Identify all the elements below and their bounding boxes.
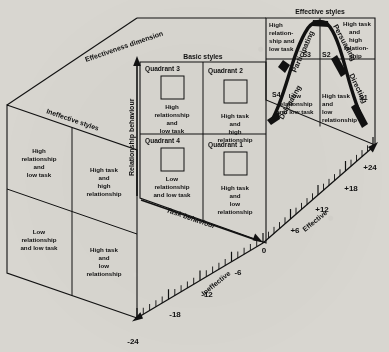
quadrant-label: Quadrant 1 (208, 141, 243, 149)
ineffective-cell-top-left: High relationship and low task (21, 147, 56, 178)
panel-basic: Basic styles Quadrant 3 High relationshi… (140, 53, 266, 243)
cell-line: and (349, 28, 360, 35)
tick-label-minus18: -18 (169, 310, 181, 319)
curve-blob-left (278, 60, 290, 73)
cell-line: and (98, 174, 109, 181)
cell-line: relationship (322, 116, 357, 123)
cell-line: and (98, 254, 109, 261)
basic-cell-top-right: Quadrant 2 High task and high relationsh… (208, 67, 253, 143)
task-behaviour-label: Task behaviour (166, 206, 218, 230)
ineffective-top-ridge (7, 18, 137, 105)
task-behaviour-axis: Task behaviour (141, 200, 263, 243)
basic-cell-bottom-left: Quadrant 4 Low relationship and low task (145, 137, 191, 198)
effectiveness-scale-axis: -24 -18 -12 -6 0 +6 +12 +18 +24 Ineffect… (127, 137, 378, 346)
quadrant-label: Quadrant 3 (145, 65, 180, 73)
cell-line: low (230, 200, 240, 207)
quadrant-box (161, 148, 184, 171)
style-label-s4: S4 (272, 91, 281, 98)
curve-blob-top (312, 20, 329, 27)
cell-line: relationship (21, 155, 56, 162)
effectiveness-dimension-ridge: Effectiveness dimension (84, 18, 266, 63)
cell-line: High task (90, 246, 118, 253)
cell-line: low task (160, 127, 185, 134)
axis-ticks (137, 137, 373, 318)
basic-cell-top-left: Quadrant 3 High relationship and low tas… (145, 65, 190, 134)
relationship-behaviour-label: Relationship behaviour (128, 98, 136, 176)
cell-line: relationship (21, 236, 56, 243)
cell-line: low task (269, 45, 294, 52)
ineffective-cell-top-right: High task and high relationship (86, 166, 121, 197)
cell-line: High (165, 103, 179, 110)
cell-line: and (229, 120, 240, 127)
panel-ineffective: Ineffective styles High relationship and… (7, 18, 137, 318)
basic-heading: Basic styles (183, 53, 223, 61)
cell-line: High task (343, 20, 371, 27)
panel-effective: Effective styles High relation- ship and… (266, 8, 375, 145)
cell-line: High (32, 147, 46, 154)
tick-label-plus18: +18 (344, 184, 358, 193)
relationship-behaviour-axis: Relationship behaviour (128, 56, 141, 196)
cell-line: High task (221, 184, 249, 191)
ineffective-cell-bottom-right: High task and low relationship (86, 246, 121, 277)
ineffective-cell-bottom-left: Low relationship and low task (20, 228, 58, 251)
effectiveness-dimension-label: Effectiveness dimension (84, 30, 164, 63)
cell-line: High task (90, 166, 118, 173)
effective-cell-top-left: High relation- ship and low task (269, 21, 295, 52)
task-axis-arrowhead (253, 234, 263, 243)
cell-line: relationship (154, 111, 189, 118)
cell-line: Low (33, 228, 46, 235)
cell-line: relation- (269, 29, 293, 36)
cell-line: low (322, 108, 332, 115)
leadership-model-figure: Ineffective styles High relationship and… (0, 0, 389, 352)
cell-line: relationship (154, 183, 189, 190)
style-label-s2: S2 (322, 51, 331, 58)
cell-line: high (228, 128, 241, 135)
cell-line: relationship (86, 190, 121, 197)
cell-line: and (322, 100, 333, 107)
style-label-s1: S1 (359, 94, 368, 101)
cell-line: High task (322, 92, 350, 99)
cell-line: and low task (153, 191, 191, 198)
cell-line: High task (221, 112, 249, 119)
effective-heading: Effective styles (295, 8, 345, 16)
tick-label-minus6: -6 (234, 268, 242, 277)
tick-label-zero: 0 (262, 246, 267, 255)
style-label-s3: S3 (302, 51, 311, 58)
cell-line: Low (166, 175, 179, 182)
cell-line: and low task (20, 244, 58, 251)
tick-label-plus24: +24 (363, 163, 377, 172)
tick-label-plus6: +6 (290, 226, 300, 235)
quadrant-label: Quadrant 4 (145, 137, 180, 145)
cell-line: and (33, 163, 44, 170)
diagram-canvas: Ineffective styles High relationship and… (0, 0, 389, 352)
ineffective-axis-label: Ineffective (200, 269, 231, 296)
cell-line: high (349, 36, 362, 43)
cell-line: low task (27, 171, 52, 178)
quadrant-box (224, 152, 247, 175)
tick-label-minus24: -24 (127, 337, 139, 346)
cell-line: low (99, 262, 109, 269)
quadrant-box (161, 76, 184, 99)
cell-line: relationship (217, 208, 252, 215)
cell-line: ship and (269, 37, 295, 44)
quadrant-box (224, 80, 247, 103)
ineffective-heading: Ineffective styles (45, 107, 100, 132)
cell-line: High (269, 21, 283, 28)
relationship-axis-arrowhead (133, 56, 141, 66)
basic-cell-bottom-right: Quadrant 1 High task and low relationshi… (208, 141, 253, 215)
cell-line: and (229, 192, 240, 199)
cell-line: and (166, 119, 177, 126)
cell-line: relationship (86, 270, 121, 277)
quadrant-label: Quadrant 2 (208, 67, 243, 75)
cell-line: high (97, 182, 110, 189)
